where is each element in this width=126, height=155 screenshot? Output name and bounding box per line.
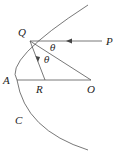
label-A: A [2, 74, 10, 86]
arrow-icon [66, 39, 72, 44]
arrow-icon [36, 56, 41, 62]
label-P: P [105, 35, 113, 47]
optics-diagram: Q P A R O C θ θ [0, 0, 126, 155]
label-R: R [35, 83, 43, 95]
label-C: C [15, 114, 23, 126]
angle-theta-1: θ [50, 43, 56, 53]
circular-arc [15, 5, 88, 150]
label-O: O [87, 83, 95, 95]
angle-theta-2: θ [44, 55, 50, 65]
line-Q-to-O [30, 41, 91, 80]
label-Q: Q [18, 26, 26, 38]
